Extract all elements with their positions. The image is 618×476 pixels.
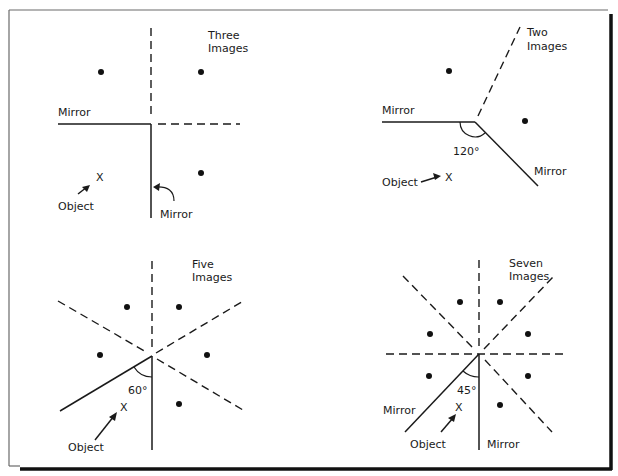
image-dot bbox=[525, 373, 531, 379]
angle-label: 120° bbox=[453, 145, 480, 158]
image-dot bbox=[97, 352, 103, 358]
arrowhead-icon bbox=[82, 185, 90, 192]
mirror-label: Mirror bbox=[160, 208, 193, 221]
image-dot bbox=[124, 304, 130, 310]
image-dot bbox=[98, 69, 104, 75]
object-marker: X bbox=[96, 171, 104, 184]
mirror-label: Mirror bbox=[383, 404, 416, 417]
angle-label: 60° bbox=[128, 384, 148, 397]
mirror-extension bbox=[403, 276, 474, 349]
mirror-extension bbox=[157, 359, 243, 410]
object-label: Object bbox=[410, 438, 447, 451]
object-label: Object bbox=[382, 176, 419, 189]
panel-caption-line2: Images bbox=[527, 40, 567, 53]
image-dot bbox=[457, 299, 463, 305]
panel-two-images: Two Images 120° Mirror Mirror X Object bbox=[382, 26, 567, 189]
mirror-extension bbox=[484, 277, 553, 349]
mirror-extension bbox=[485, 360, 552, 432]
image-dot bbox=[497, 299, 503, 305]
image-dot bbox=[204, 352, 210, 358]
panel-three-images: Three Images Mirror Mirror X Object bbox=[58, 28, 248, 221]
panel-caption-line1: Seven bbox=[509, 257, 543, 270]
image-dot bbox=[446, 68, 452, 74]
image-dot bbox=[427, 331, 433, 337]
panel-caption-line2: Images bbox=[509, 270, 549, 283]
image-dot bbox=[176, 304, 182, 310]
panel-caption-line1: Two bbox=[526, 26, 548, 39]
mirror-images-figure: Three Images Mirror Mirror X Object Two … bbox=[0, 0, 618, 476]
image-dot bbox=[522, 118, 528, 124]
panel-caption-line1: Five bbox=[192, 258, 214, 271]
image-dot bbox=[176, 401, 182, 407]
mirror-label: Mirror bbox=[382, 104, 415, 117]
panel-caption-line2: Images bbox=[208, 42, 248, 55]
image-dot bbox=[497, 402, 503, 408]
panel-seven-images: Seven Images 45° Mirror Mirror X Object bbox=[383, 257, 568, 451]
angle-label: 45° bbox=[457, 384, 477, 397]
mirror-label: Mirror bbox=[534, 165, 567, 178]
image-dot bbox=[525, 331, 531, 337]
mirror-label: Mirror bbox=[58, 106, 91, 119]
mirror-label: Mirror bbox=[487, 438, 520, 451]
image-dot bbox=[198, 69, 204, 75]
mirror-extension bbox=[58, 301, 148, 353]
mirror-extension bbox=[478, 27, 520, 116]
angle-arc bbox=[463, 371, 479, 377]
object-label: Object bbox=[58, 200, 95, 213]
arrowhead-icon bbox=[448, 414, 456, 422]
image-dot bbox=[198, 170, 204, 176]
object-marker: X bbox=[455, 401, 463, 414]
object-label: Object bbox=[68, 441, 105, 454]
mirror-diagonal bbox=[475, 122, 538, 186]
object-marker: X bbox=[445, 171, 453, 184]
object-arrow bbox=[95, 416, 114, 440]
panel-five-images: Five Images 60° X Object bbox=[58, 258, 245, 454]
angle-arc bbox=[134, 367, 152, 377]
arrowhead-icon bbox=[153, 183, 160, 191]
arrowhead-icon bbox=[433, 173, 441, 180]
figure-frame bbox=[9, 10, 612, 470]
mirror-extension bbox=[156, 300, 245, 353]
panel-caption-line2: Images bbox=[192, 271, 232, 284]
image-dot bbox=[426, 373, 432, 379]
object-marker: X bbox=[120, 401, 128, 414]
panel-caption-line1: Three bbox=[207, 29, 240, 42]
